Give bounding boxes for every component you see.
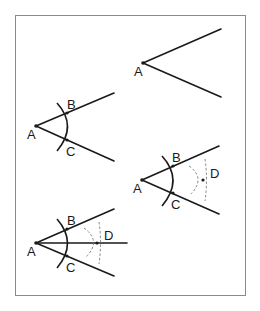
point-c (171, 191, 174, 194)
ray-lower (142, 180, 219, 214)
point-c (65, 138, 68, 141)
ray-lower (143, 63, 221, 97)
label-b: B (67, 213, 76, 228)
label-a: A (27, 127, 36, 142)
point-d (95, 241, 98, 244)
step-3-intersect: A B C D (133, 146, 219, 214)
label-a: A (133, 181, 142, 196)
construction-arc-from-b (189, 166, 198, 194)
construction-arc-from-c (205, 159, 207, 201)
point-d (201, 178, 204, 181)
label-c: C (66, 260, 75, 275)
label-b: B (67, 97, 76, 112)
label-d: D (104, 228, 113, 243)
ray-upper (143, 29, 221, 63)
label-a: A (134, 64, 143, 79)
label-c: C (171, 197, 180, 212)
angle-bisection-diagram: A A B C A B C D (0, 0, 260, 311)
label-b: B (172, 150, 181, 165)
label-a: A (27, 244, 36, 259)
step-1-angle: A (134, 29, 221, 97)
label-c: C (66, 144, 75, 159)
point-c (65, 254, 68, 257)
step-2-arc: A B C (27, 93, 114, 161)
label-d: D (210, 166, 219, 181)
step-4-bisector: A B C D (27, 209, 127, 276)
